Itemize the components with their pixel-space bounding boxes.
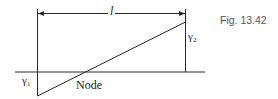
gamma1-subscript: 1 (27, 80, 31, 88)
figure-caption: Fig. 13.42 (220, 15, 267, 26)
gamma2-subscript: 2 (193, 36, 197, 44)
diagram-canvas: l γ1 γ2 Node Fig. 13.42 (0, 0, 278, 99)
gamma2-label: γ2 (188, 31, 196, 44)
gamma1-label: γ1 (22, 75, 30, 88)
length-label: l (108, 5, 115, 17)
diagonal-line (38, 22, 186, 96)
node-label: Node (76, 79, 102, 91)
